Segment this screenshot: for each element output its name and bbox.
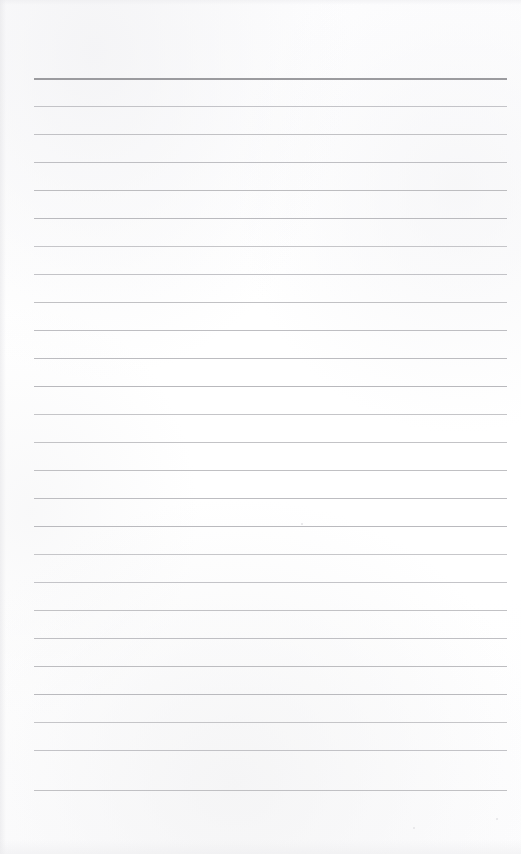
notepad-page — [0, 0, 521, 854]
scan-speck — [413, 827, 415, 829]
scan-speck — [496, 818, 498, 820]
scan-speck — [301, 523, 303, 525]
speck-layer — [0, 0, 521, 854]
